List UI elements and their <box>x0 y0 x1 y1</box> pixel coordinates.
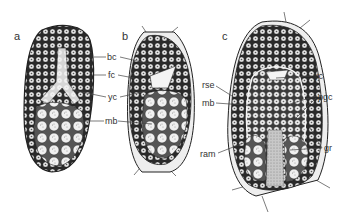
label-mb: mb <box>105 116 118 126</box>
panel-letter-b: b <box>122 30 128 42</box>
panel-c: c <box>222 12 330 212</box>
panel-a: a <box>14 25 94 172</box>
panel-letter-c: c <box>222 30 228 42</box>
label-mb-c: mb <box>202 98 215 108</box>
panel-letter-a: a <box>14 30 21 42</box>
panel-c-yolk-cavity <box>266 70 288 80</box>
figure-canvas: a b bc fc yc mb c <box>0 0 350 217</box>
label-yc: yc <box>108 92 118 102</box>
label-ram: ram <box>200 149 216 159</box>
label-pgc: pgc <box>318 92 333 102</box>
label-yc-c: yc <box>314 71 324 81</box>
panel-c-axial-stipple <box>266 130 284 186</box>
label-rse: rse <box>202 80 215 90</box>
label-gr: gr <box>324 143 332 153</box>
label-fc: fc <box>108 70 116 80</box>
label-bc: bc <box>107 52 117 62</box>
panel-b: b <box>122 26 194 176</box>
